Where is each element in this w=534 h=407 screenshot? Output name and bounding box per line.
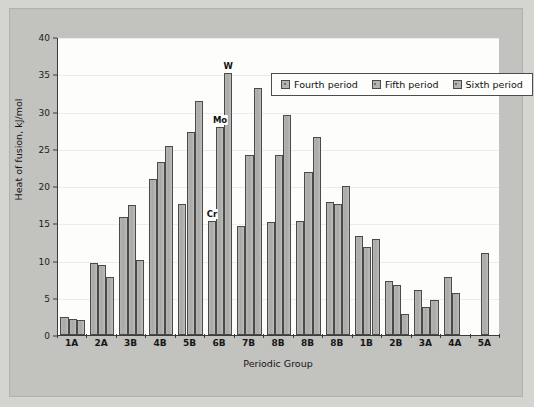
x-axis-title: Periodic Group bbox=[57, 358, 499, 369]
x-axis-tick-label: 6B bbox=[213, 338, 226, 348]
bar bbox=[187, 132, 195, 335]
bar bbox=[363, 247, 371, 335]
x-axis-tick-label: 5A bbox=[478, 338, 491, 348]
bar bbox=[106, 277, 114, 335]
legend-swatch-icon bbox=[453, 80, 462, 89]
bar bbox=[245, 155, 253, 335]
x-axis-tick-mark bbox=[440, 334, 441, 338]
bar bbox=[414, 290, 422, 335]
legend-label: Fifth period bbox=[385, 79, 439, 90]
y-axis-tick-label: 25 bbox=[39, 145, 50, 155]
bar bbox=[157, 162, 165, 335]
bar bbox=[355, 236, 363, 335]
gridline bbox=[58, 113, 499, 114]
x-axis-tick-mark bbox=[263, 334, 264, 338]
y-axis-tick-label: 5 bbox=[44, 294, 50, 304]
y-axis-tick-label: 30 bbox=[39, 108, 50, 118]
y-axis-tick-label: 20 bbox=[39, 182, 50, 192]
bar bbox=[90, 263, 98, 335]
legend-label: Fourth period bbox=[294, 79, 358, 90]
bar-annotation-w: W bbox=[223, 61, 234, 71]
bar bbox=[334, 204, 342, 335]
x-axis-tick-mark bbox=[57, 334, 58, 338]
y-axis-ticks: 0510152025303540 bbox=[0, 38, 57, 336]
legend-item: Fifth period bbox=[372, 79, 439, 90]
bar bbox=[444, 277, 452, 335]
bar bbox=[267, 222, 275, 335]
bar bbox=[452, 293, 460, 335]
x-axis-tick-label: 4B bbox=[154, 338, 167, 348]
bar bbox=[385, 281, 393, 335]
x-axis-tick-mark bbox=[204, 334, 205, 338]
bar bbox=[69, 319, 77, 335]
x-axis-tick-mark bbox=[293, 334, 294, 338]
bar bbox=[283, 115, 291, 335]
y-axis-tick-label: 35 bbox=[39, 70, 50, 80]
bar bbox=[372, 239, 380, 335]
x-axis-tick-mark bbox=[234, 334, 235, 338]
bar bbox=[195, 101, 203, 335]
y-axis-tick-label: 40 bbox=[39, 33, 50, 43]
bar bbox=[401, 314, 409, 335]
bar bbox=[136, 260, 144, 335]
legend-item: Sixth period bbox=[453, 79, 523, 90]
chart-screenshot: 0510152025303540 Heat of fusion, kJ/mol … bbox=[0, 0, 534, 407]
legend-label: Sixth period bbox=[466, 79, 523, 90]
bar bbox=[119, 217, 127, 335]
bar bbox=[393, 285, 401, 335]
bar bbox=[165, 146, 173, 335]
y-axis-tick-label: 15 bbox=[39, 219, 50, 229]
bar bbox=[60, 317, 68, 335]
bar bbox=[237, 226, 245, 336]
gridline bbox=[58, 38, 499, 39]
bar bbox=[77, 320, 85, 335]
x-axis-tick-label: 2B bbox=[389, 338, 402, 348]
bar bbox=[326, 202, 334, 335]
x-axis-tick-label: 1A bbox=[65, 338, 78, 348]
x-axis-tick-label: 5B bbox=[183, 338, 196, 348]
bar bbox=[128, 205, 136, 335]
x-axis-tick-label: 3B bbox=[124, 338, 137, 348]
x-axis-tick-label: 8B bbox=[301, 338, 314, 348]
bar bbox=[296, 221, 304, 335]
x-axis-tick-mark bbox=[175, 334, 176, 338]
bar-annotation-mo: Mo bbox=[212, 115, 228, 125]
bar bbox=[342, 186, 350, 335]
bar bbox=[304, 172, 312, 335]
x-axis-tick-mark bbox=[411, 334, 412, 338]
y-axis-tick-label: 10 bbox=[39, 257, 50, 267]
bar bbox=[178, 204, 186, 335]
bar bbox=[275, 155, 283, 335]
x-axis-tick-mark bbox=[499, 334, 500, 338]
x-axis-tick-label: 4A bbox=[448, 338, 461, 348]
bar bbox=[149, 179, 157, 335]
x-axis-tick-mark bbox=[322, 334, 323, 338]
x-axis-labels: 1A2A3B4B5B6B7B8B8B8B1B2B3A4A5A bbox=[57, 338, 499, 356]
x-axis-tick-mark bbox=[116, 334, 117, 338]
bar bbox=[216, 127, 224, 335]
gridline bbox=[58, 150, 499, 151]
bar bbox=[208, 221, 216, 335]
bar bbox=[430, 300, 438, 335]
x-axis-tick-label: 2A bbox=[95, 338, 108, 348]
x-axis-tick-mark bbox=[381, 334, 382, 338]
bar bbox=[98, 265, 106, 335]
x-axis-tick-mark bbox=[145, 334, 146, 338]
x-axis-tick-label: 8B bbox=[330, 338, 343, 348]
chart-legend: Fourth periodFifth periodSixth period bbox=[271, 73, 533, 96]
y-axis-tick-label: 0 bbox=[44, 331, 50, 341]
y-axis-title: Heat of fusion, kJ/mol bbox=[13, 20, 24, 280]
x-axis-tick-label: 1B bbox=[360, 338, 373, 348]
legend-swatch-icon bbox=[281, 80, 290, 89]
x-axis-tick-label: 3A bbox=[419, 338, 432, 348]
x-axis-tick-mark bbox=[86, 334, 87, 338]
bar-annotation-cr: Cr bbox=[206, 209, 218, 219]
x-axis-tick-mark bbox=[470, 334, 471, 338]
legend-item: Fourth period bbox=[281, 79, 358, 90]
legend-swatch-icon bbox=[372, 80, 381, 89]
x-axis-tick-label: 7B bbox=[242, 338, 255, 348]
bar bbox=[422, 307, 430, 335]
bar bbox=[481, 253, 489, 335]
bar bbox=[313, 137, 321, 335]
bar bbox=[254, 88, 262, 335]
